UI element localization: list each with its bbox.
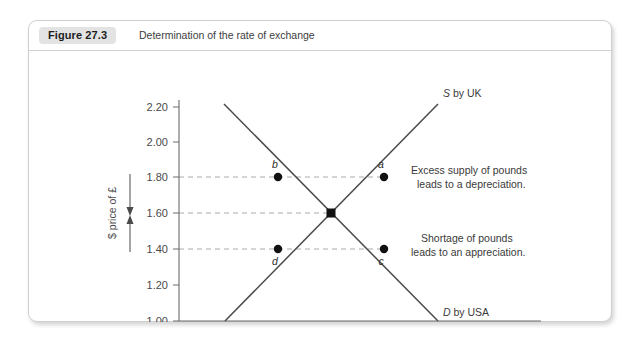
- figure-caption: Determination of the rate of exchange: [139, 29, 315, 41]
- y-axis-tick-labels: 2.20 2.00 1.80 1.60 1.40 1.20 1.00: [147, 101, 168, 322]
- data-point-b: [274, 173, 282, 181]
- data-point-a: [380, 173, 388, 181]
- direction-arrows: [127, 174, 134, 252]
- demand-curve-label-text: by USA: [451, 306, 490, 318]
- supply-curve-label: S by UK: [443, 87, 482, 99]
- figure-number-badge: Figure 27.3: [39, 27, 116, 44]
- figure-header: Figure 27.3 Determination of the rate of…: [29, 21, 611, 51]
- data-point-d: [274, 245, 282, 253]
- annotation-excess-supply-line2: leads to a depreciation.: [417, 178, 526, 190]
- data-point-label-d: d: [272, 255, 279, 267]
- data-point-label-a: a: [378, 158, 384, 170]
- chart-plot-area: 2.20 2.00 1.80 1.60 1.40 1.20 1.00 0 $ p…: [29, 52, 613, 322]
- figure-card: Figure 27.3 Determination of the rate of…: [28, 20, 612, 322]
- supply-curve-label-text: by UK: [450, 87, 482, 99]
- annotation-shortage: Shortage of pounds leads to an appreciat…: [411, 232, 525, 258]
- y-tick-label-1-20: 1.20: [147, 279, 168, 291]
- y-tick-label-1-60: 1.60: [147, 207, 168, 219]
- data-point-label-b: b: [272, 158, 278, 170]
- annotation-shortage-line1: Shortage of pounds: [421, 232, 513, 244]
- data-point-c: [380, 245, 388, 253]
- arrow-up-icon: [127, 215, 134, 224]
- data-point-equilibrium: [327, 209, 336, 218]
- y-tick-label-1-40: 1.40: [147, 243, 168, 255]
- demand-curve-label: D by USA: [443, 306, 489, 318]
- data-point-label-c: c: [378, 255, 384, 267]
- y-tick-label-1-80: 1.80: [147, 171, 168, 183]
- y-tick-label-2-00: 2.00: [147, 136, 168, 148]
- arrow-down-icon: [127, 207, 134, 216]
- annotation-excess-supply: Excess supply of pounds leads to a depre…: [411, 164, 527, 190]
- supply-curve-label-symbol: S: [443, 87, 450, 99]
- y-axis-ticks: [173, 107, 179, 321]
- y-tick-label-1-00: 1.00: [147, 315, 168, 322]
- guide-lines: [179, 177, 384, 249]
- annotation-shortage-line2: leads to an appreciation.: [411, 246, 525, 258]
- y-tick-label-2-20: 2.20: [147, 101, 168, 113]
- annotation-excess-supply-line1: Excess supply of pounds: [411, 164, 527, 176]
- y-axis-title: $ price of £: [106, 187, 118, 239]
